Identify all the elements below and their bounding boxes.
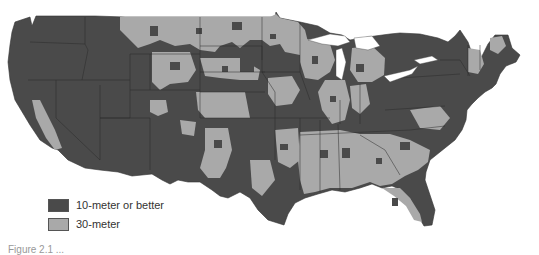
thirty-meter-swatch	[48, 218, 69, 231]
ten-meter-swatch	[48, 199, 69, 212]
legend: 10-meter or better 30-meter	[48, 196, 164, 234]
legend-label: 10-meter or better	[76, 199, 164, 211]
figure-caption: Figure 2.1 ...	[8, 244, 64, 255]
legend-item-thirty-meter: 30-meter	[48, 215, 164, 233]
legend-label: 30-meter	[76, 218, 120, 230]
legend-item-ten-meter: 10-meter or better	[48, 196, 164, 214]
